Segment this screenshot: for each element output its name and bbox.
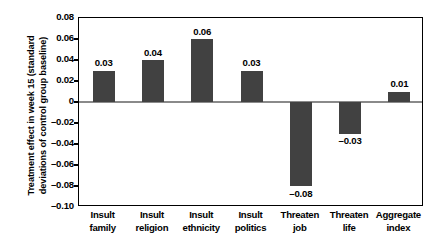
bar-value-label: –0.03 — [323, 136, 377, 146]
y-axis-tick-labels: 0.080.060.040.020–0.02–0.04–0.06–0.08–0.… — [30, 0, 74, 251]
x-category-label-line: ethnicity — [177, 222, 226, 235]
bar — [388, 92, 410, 103]
plot-area: 0.030.040.060.03–0.08–0.030.01 — [78, 17, 423, 206]
x-category-label-line: Insult — [177, 209, 226, 222]
x-category-label-line: religion — [127, 222, 176, 235]
x-category-label-line: Aggregate — [374, 209, 423, 222]
y-tick-label: –0.06 — [30, 159, 74, 169]
bar — [191, 39, 213, 102]
bar-value-label: 0.04 — [126, 48, 180, 58]
x-category-label: Aggregateindex — [374, 209, 423, 234]
y-tick-label: 0.08 — [30, 12, 74, 22]
y-tick-mark — [74, 143, 79, 144]
x-category-label: Insultreligion — [127, 209, 176, 234]
x-category-label: Threatenlife — [324, 209, 373, 234]
x-category-label-line: index — [374, 222, 423, 235]
y-tick-mark — [74, 164, 79, 165]
y-tick-mark — [74, 185, 79, 186]
bar — [241, 71, 263, 103]
y-tick-label: –0.08 — [30, 180, 74, 190]
x-category-label: Insultfamily — [78, 209, 127, 234]
x-category-label-line: Insult — [226, 209, 275, 222]
y-tick-label: 0.04 — [30, 54, 74, 64]
bar — [290, 102, 312, 186]
x-category-label-line: Insult — [127, 209, 176, 222]
bar-value-label: 0.03 — [77, 58, 131, 68]
bar — [93, 71, 115, 103]
y-tick-mark — [74, 80, 79, 81]
x-category-label-line: politics — [226, 222, 275, 235]
x-category-label: Insultpolitics — [226, 209, 275, 234]
bar-value-label: 0.01 — [372, 79, 426, 89]
y-tick-mark — [74, 122, 79, 123]
y-tick-label: 0.06 — [30, 33, 74, 43]
bar-value-label: –0.08 — [274, 189, 328, 199]
y-tick-mark — [74, 38, 79, 39]
y-tick-label: –0.10 — [30, 201, 74, 211]
x-category-label-line: Threaten — [275, 209, 324, 222]
x-category-label: Insultethnicity — [177, 209, 226, 234]
x-category-label: Threatenjob — [275, 209, 324, 234]
y-axis-label-container: Treatment effect in week 15 (standard de… — [0, 0, 32, 225]
x-category-label-line: Threaten — [324, 209, 373, 222]
bar-chart-figure: Treatment effect in week 15 (standard de… — [0, 0, 438, 251]
bar-value-label: 0.03 — [225, 58, 279, 68]
x-category-label-line: life — [324, 222, 373, 235]
y-tick-label: –0.02 — [30, 117, 74, 127]
bar — [339, 102, 361, 134]
y-tick-label: –0.04 — [30, 138, 74, 148]
x-category-label-line: Insult — [78, 209, 127, 222]
bar-value-label: 0.06 — [175, 27, 229, 37]
bar — [142, 60, 164, 102]
y-tick-mark — [74, 101, 79, 102]
y-tick-label: 0.02 — [30, 75, 74, 85]
x-axis-category-labels: InsultfamilyInsultreligionInsultethnicit… — [78, 209, 423, 249]
x-category-label-line: family — [78, 222, 127, 235]
x-category-label-line: job — [275, 222, 324, 235]
y-tick-label: 0 — [30, 96, 74, 106]
